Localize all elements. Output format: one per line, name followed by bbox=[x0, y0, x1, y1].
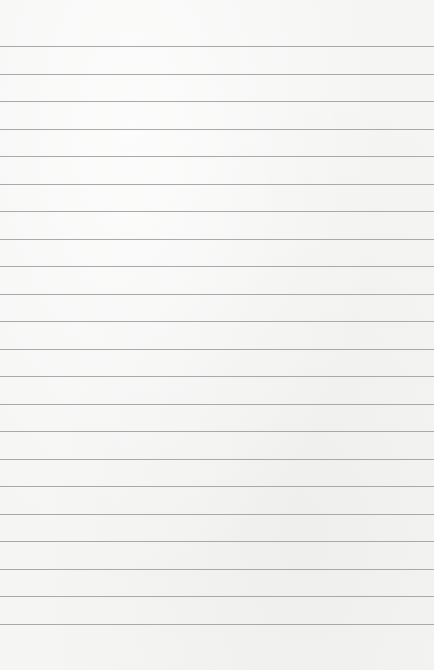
ruled-line bbox=[0, 101, 434, 102]
ruled-line bbox=[0, 74, 434, 75]
ruled-line bbox=[0, 184, 434, 185]
ruled-line bbox=[0, 624, 434, 625]
ruled-line bbox=[0, 156, 434, 157]
ruled-line bbox=[0, 514, 434, 515]
ruled-line bbox=[0, 129, 434, 130]
ruled-line bbox=[0, 431, 434, 432]
ruled-line bbox=[0, 239, 434, 240]
lined-paper-sheet bbox=[0, 0, 434, 670]
ruled-line bbox=[0, 376, 434, 377]
ruled-line bbox=[0, 459, 434, 460]
ruled-line bbox=[0, 596, 434, 597]
ruled-line bbox=[0, 541, 434, 542]
ruled-line bbox=[0, 569, 434, 570]
ruled-line bbox=[0, 349, 434, 350]
ruled-line bbox=[0, 294, 434, 295]
ruled-line bbox=[0, 266, 434, 267]
ruled-line bbox=[0, 211, 434, 212]
ruled-line bbox=[0, 321, 434, 322]
ruled-line bbox=[0, 404, 434, 405]
ruled-line bbox=[0, 486, 434, 487]
ruled-line bbox=[0, 46, 434, 47]
